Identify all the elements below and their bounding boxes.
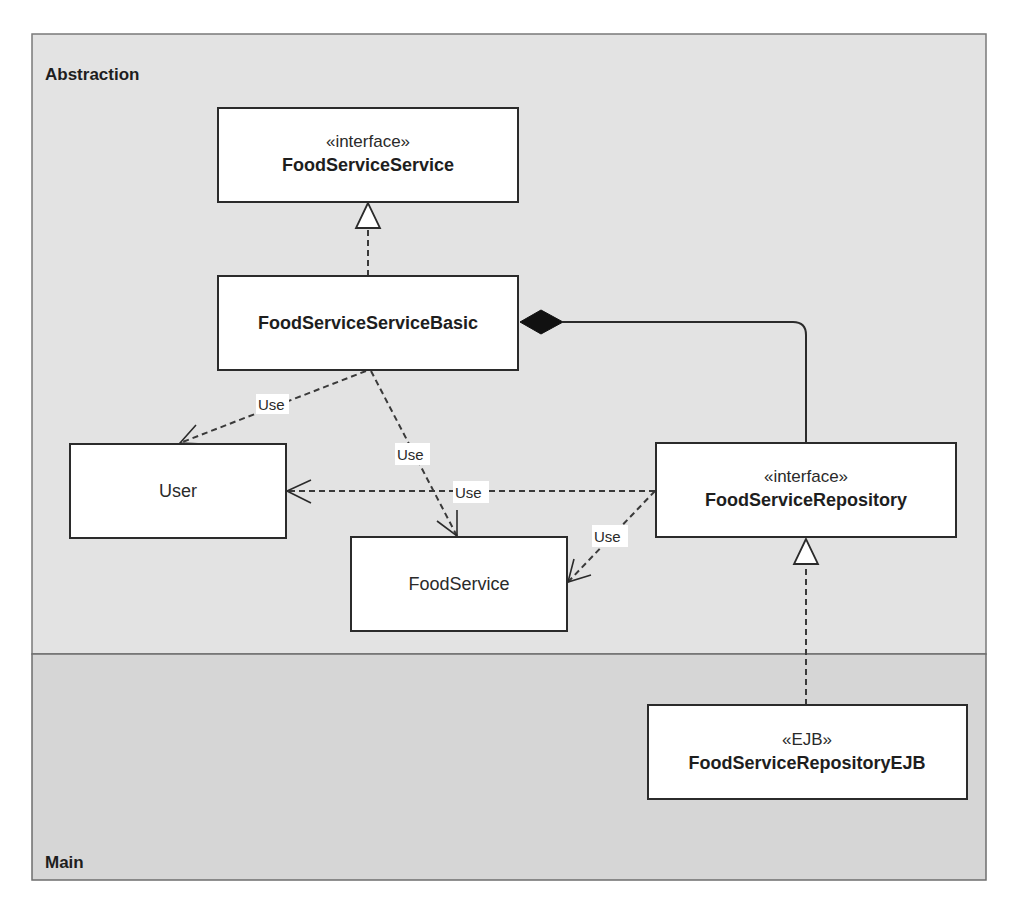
use-label-basic-foodservice: Use: [397, 446, 424, 463]
stereotype-label: «EJB»: [782, 730, 832, 749]
use-label-repository-user: Use: [455, 484, 482, 501]
stereotype-label: «interface»: [764, 467, 848, 486]
class-food-service-service[interactable]: «interface» FoodServiceService: [218, 108, 518, 202]
class-name: FoodServiceService: [282, 155, 454, 175]
class-name: FoodServiceRepositoryEJB: [688, 753, 925, 773]
class-food-service-repository-ejb[interactable]: «EJB» FoodServiceRepositoryEJB: [648, 705, 967, 799]
class-name: FoodServiceServiceBasic: [258, 313, 478, 333]
stereotype-label: «interface»: [326, 132, 410, 151]
class-name: FoodService: [408, 574, 509, 594]
use-label-repository-foodservice: Use: [594, 528, 621, 545]
class-food-service-service-basic[interactable]: FoodServiceServiceBasic: [218, 276, 518, 370]
uml-class-diagram: Abstraction Main Use Use Use Use: [0, 0, 1018, 911]
package-abstraction-label: Abstraction: [45, 65, 139, 84]
class-food-service-repository[interactable]: «interface» FoodServiceRepository: [656, 443, 956, 537]
class-user[interactable]: User: [70, 444, 286, 538]
package-main-label: Main: [45, 853, 84, 872]
class-name: User: [159, 481, 197, 501]
class-food-service[interactable]: FoodService: [351, 537, 567, 631]
class-name: FoodServiceRepository: [705, 490, 907, 510]
use-label-basic-user: Use: [258, 396, 285, 413]
